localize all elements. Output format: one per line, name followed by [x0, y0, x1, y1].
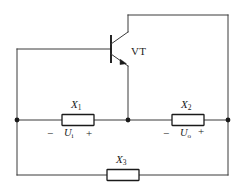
input-voltage-symbol: U: [64, 127, 72, 138]
transistor-emitter-arrow: [120, 59, 126, 64]
resistor-x1-body: [62, 115, 94, 126]
resistor-x2-symbol: X: [181, 98, 188, 110]
output-voltage-symbol: U: [180, 127, 188, 138]
output-voltage-minus-sign: −: [163, 128, 169, 139]
circuit-diagram-canvas: VT X1 X2 X3 − Ui + − Uo +: [0, 0, 244, 189]
transistor-vt-symbol: [111, 32, 128, 66]
resistor-x3-subscript: 3: [123, 158, 127, 167]
resistor-x2-label: X2: [181, 99, 191, 110]
input-voltage-label: Ui: [64, 128, 74, 139]
transistor-emitter-lead: [111, 54, 128, 66]
resistor-x3-label: X3: [116, 154, 126, 165]
node-dot-left: [15, 118, 20, 123]
resistor-x1-subscript: 1: [78, 103, 82, 112]
transistor-label-vt: VT: [131, 45, 146, 57]
input-voltage-plus-sign: +: [86, 128, 92, 139]
output-voltage-label: Uo: [180, 128, 191, 139]
resistor-x2-subscript: 2: [188, 103, 192, 112]
output-voltage-plus-sign: +: [198, 126, 204, 137]
transistor-collector-lead: [111, 32, 128, 44]
resistor-x2-body: [172, 115, 204, 126]
node-dot-right: [226, 118, 231, 123]
output-voltage-subscript: o: [188, 132, 192, 140]
input-voltage-subscript: i: [72, 132, 74, 140]
input-voltage-minus-sign: −: [47, 128, 53, 139]
resistor-x3-body: [107, 170, 139, 181]
node-dot-center: [126, 118, 131, 123]
resistor-x1-symbol: X: [71, 98, 78, 110]
resistor-x3-symbol: X: [116, 153, 123, 165]
resistor-x1-label: X1: [71, 99, 81, 110]
